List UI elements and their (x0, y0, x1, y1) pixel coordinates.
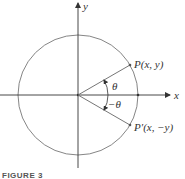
point-x-intercept (137, 94, 140, 97)
point-p-prime-label: P′(x, −y) (133, 121, 173, 134)
y-axis-label: y (82, 0, 88, 12)
theta-label: θ (112, 80, 118, 92)
x-axis-label: x (173, 89, 179, 101)
neg-theta-label: −θ (108, 98, 121, 110)
theta-arc (104, 80, 108, 95)
figure-caption: FIGURE 3 (2, 172, 43, 179)
point-p-prime (129, 124, 132, 127)
unit-circle-diagram: y x θ −θ P(x, y) P′(x, −y) (0, 0, 185, 179)
point-p (129, 64, 132, 67)
point-p-label: P(x, y) (133, 58, 164, 71)
